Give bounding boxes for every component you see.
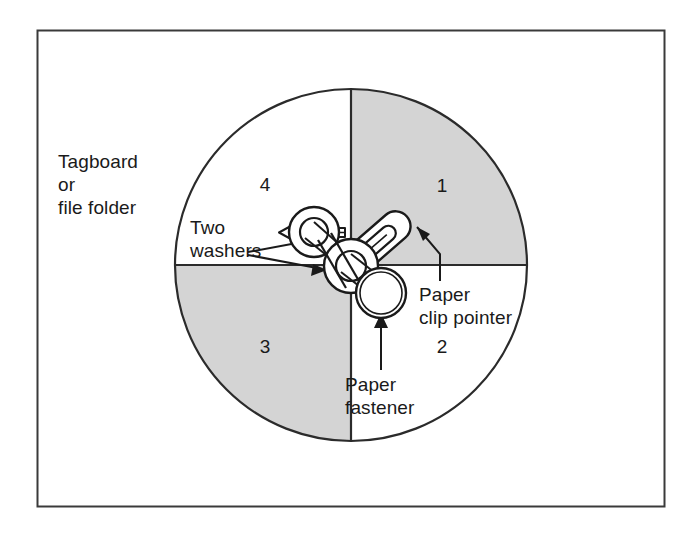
quadrant-number-3: 3 <box>252 336 278 358</box>
quadrant-number-1: 1 <box>429 175 455 197</box>
tagboard-label: Tagboard or file folder <box>58 150 138 219</box>
spinner-figure: Tagboard or file folder Two washers Pape… <box>0 0 696 533</box>
two-washers-label: Two washers <box>190 216 261 262</box>
figure-canvas <box>0 0 696 533</box>
paper-fastener-label: Paper fastener <box>345 373 414 419</box>
quadrant-number-2: 2 <box>429 336 455 358</box>
quadrant-number-4: 4 <box>252 174 278 196</box>
fastener-ring <box>356 268 406 318</box>
paper-clip-pointer-label: Paper clip pointer <box>419 283 512 329</box>
